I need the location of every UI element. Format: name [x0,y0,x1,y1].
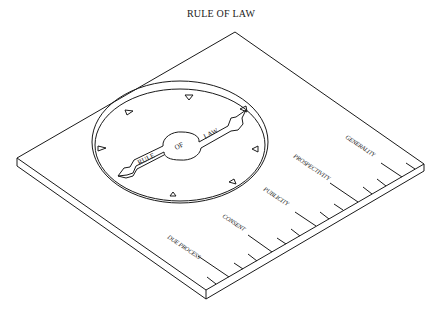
tick-short [234,263,243,269]
board-edge [17,158,424,299]
tick-short [406,163,415,169]
tick-short [291,229,300,236]
marker-right [252,146,258,152]
tick-short [377,179,386,186]
marker-top [185,95,193,100]
tick-prospectivity [330,183,358,202]
tick-short [248,254,257,261]
pointer-label-of: OF [173,141,185,152]
tick-publicity [295,212,316,226]
tick-generality [381,163,402,177]
tick-consent [248,235,272,252]
label-due-process: DUE PROCESS [166,232,202,260]
marker-lower-right [229,179,236,184]
label-consent: CONSENT [221,212,247,233]
marker-left [98,146,106,151]
marker-bottom [170,192,176,196]
label-publicity: PUBLICITY [262,184,291,207]
label-prospectivity: PROSPECTIVITY [292,151,333,182]
tick-short [207,277,216,284]
tick-short [363,187,372,194]
tick-short [334,204,343,210]
tick-due-process [198,256,229,277]
label-generality: GENERALITY [344,133,377,158]
tick-short [277,238,286,244]
dial-pointer: RULE OF LAW [118,110,246,178]
scale-labels: DUE PROCESS CONSENT PUBLICITY PROSPECTIV… [166,133,378,260]
board-top-surface [17,32,424,290]
rule-of-law-diagram: RULE OF LAW DUE PROCESS CONSENT PUBLICIT… [0,0,442,315]
tick-short [320,212,329,219]
marker-upper-left [125,110,133,115]
board [17,32,424,299]
